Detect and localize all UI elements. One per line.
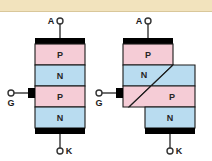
left-layer-n1-label: N	[57, 71, 64, 81]
right-layer-p2-label: P	[169, 92, 175, 102]
right-anode-label: A	[136, 16, 143, 26]
right-anode-terminal-icon	[145, 18, 151, 24]
left-layer-p2-label: P	[57, 92, 63, 102]
left-gate-contact-bar	[28, 88, 35, 98]
left-cathode-contact-bar	[35, 128, 85, 134]
right-layer-n1-label: N	[141, 70, 148, 80]
left-layer-p1-label: P	[57, 50, 63, 60]
scr-structure-figure: A P N P N K G	[0, 0, 212, 161]
right-layer-p1-label: P	[145, 50, 151, 60]
left-cathode-terminal-icon	[57, 148, 63, 154]
right-cathode-terminal-icon	[167, 148, 173, 154]
left-gate-label: G	[7, 98, 14, 108]
right-gate-contact-bar	[116, 88, 123, 98]
diagram-canvas: A P N P N K G	[0, 0, 212, 161]
right-gate-terminal-icon	[96, 90, 102, 96]
right-cathode-label: K	[176, 146, 183, 156]
right-diagram: A P N P N K	[95, 16, 195, 156]
left-anode-contact-bar	[35, 38, 85, 44]
left-layer-n2-label: N	[57, 113, 64, 123]
right-layer-n2-label: N	[167, 113, 174, 123]
right-cathode-contact-bar	[145, 128, 195, 134]
left-gate-terminal-icon	[8, 90, 14, 96]
left-anode-terminal-icon	[57, 18, 63, 24]
right-gate-label: G	[95, 98, 102, 108]
right-anode-contact-bar	[123, 38, 173, 44]
left-anode-label: A	[48, 16, 55, 26]
left-cathode-label: K	[66, 146, 73, 156]
left-diagram: A P N P N K G	[7, 16, 85, 156]
